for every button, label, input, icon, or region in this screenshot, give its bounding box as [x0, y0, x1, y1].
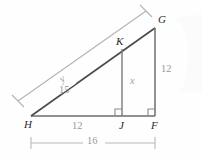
right-angle-mark-F [148, 109, 155, 116]
vertex-label-G: G [158, 14, 166, 25]
length-label-12-vertical: 12 [161, 64, 172, 75]
dimension-tick-y-end [140, 5, 152, 17]
geometry-figure: H J F G K y 15 x 12 12 16 [0, 0, 202, 162]
segment-HG-hypotenuse [31, 28, 155, 116]
dimension-tick-y-start [12, 95, 24, 107]
right-angle-mark-J [115, 109, 122, 116]
dimension-line-y [18, 11, 146, 101]
vertex-label-K: K [116, 36, 123, 47]
length-label-12-base: 12 [72, 121, 83, 132]
vertex-label-H: H [24, 119, 32, 130]
vertex-label-F: F [151, 120, 158, 131]
length-label-15: 15 [59, 85, 70, 96]
vertex-label-J: J [119, 120, 124, 131]
length-label-x: x [130, 76, 135, 87]
paper-artifact [176, 14, 202, 92]
figure-canvas [0, 0, 202, 162]
length-label-16: 16 [87, 136, 98, 147]
